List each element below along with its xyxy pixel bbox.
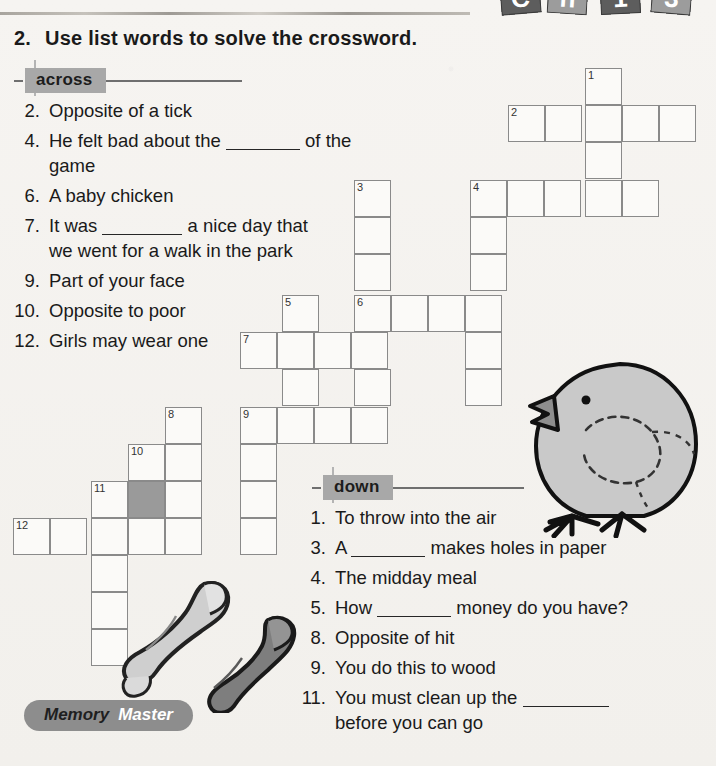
clue-item: 9. You do this to wood	[300, 655, 706, 680]
grid-cell[interactable]	[354, 254, 391, 291]
grid-cell[interactable]	[659, 105, 696, 142]
grid-cell[interactable]	[622, 180, 659, 217]
grid-cell[interactable]	[545, 105, 582, 142]
grid-cell-number: 3	[357, 181, 363, 194]
grid-cell-start-11[interactable]: 11	[91, 481, 128, 518]
answer-blank[interactable]	[523, 706, 609, 707]
clue-item: 7. It was a nice day that we went for a …	[14, 213, 366, 263]
grid-cell-number: 12	[16, 519, 28, 532]
grid-cell-start-1[interactable]: 1	[585, 68, 622, 105]
scan-edge-artifact	[0, 12, 470, 15]
grid-cell-start-2[interactable]: 2	[508, 105, 545, 142]
clue-number: 1.	[300, 505, 326, 530]
clue-text-pre: He felt bad about the	[49, 130, 221, 151]
answer-blank[interactable]	[377, 616, 451, 617]
clue-text: You must clean up the before you can go	[335, 685, 706, 735]
grid-cell[interactable]	[585, 180, 622, 217]
pair-of-socks-illustration	[118, 578, 328, 713]
grid-cell-number: 2	[511, 106, 517, 119]
grid-cell-start-9[interactable]: 9	[240, 407, 277, 444]
grid-cell-start-12[interactable]: 12	[13, 518, 50, 555]
grid-cell[interactable]	[165, 518, 202, 555]
letter-tile: 1	[599, 0, 641, 15]
grid-cell[interactable]	[354, 217, 391, 254]
grid-cell[interactable]	[351, 407, 388, 444]
grid-cell-start-6[interactable]: 6	[354, 295, 391, 332]
grid-cell[interactable]	[277, 332, 314, 369]
answer-blank[interactable]	[102, 234, 182, 235]
grid-cell[interactable]	[314, 407, 351, 444]
grid-cell[interactable]	[470, 254, 507, 291]
grid-cell[interactable]	[391, 295, 428, 332]
grid-cell-start-5[interactable]: 5	[282, 295, 319, 332]
grid-cell[interactable]	[240, 444, 277, 481]
grid-cell-start-3[interactable]: 3	[354, 180, 391, 217]
grid-cell[interactable]	[50, 518, 87, 555]
grid-cell[interactable]	[585, 142, 622, 179]
grid-cell[interactable]	[465, 369, 502, 406]
grid-cell[interactable]	[354, 369, 391, 406]
memory-master-badge: Memory Master	[24, 700, 193, 731]
clue-text: How money do you have?	[335, 595, 706, 620]
grid-cell-start-4[interactable]: 4	[470, 180, 507, 217]
clue-item: 8. Opposite of hit	[300, 625, 706, 650]
grid-cell-number: 5	[285, 296, 291, 309]
clue-number: 6.	[14, 183, 40, 208]
corner-letter-tiles: C h 1 3	[500, 0, 716, 14]
clue-text: You do this to wood	[335, 655, 706, 680]
grid-cell-number: 7	[243, 333, 249, 346]
grid-cell-number: 6	[357, 296, 363, 309]
clue-number: 10.	[14, 298, 40, 323]
grid-cell-number: 10	[131, 445, 143, 458]
grid-cell[interactable]	[470, 217, 507, 254]
clue-item: 5. How money do you have?	[300, 595, 706, 620]
clue-text-post: money do you have?	[456, 597, 628, 618]
clue-text: A makes holes in paper	[335, 535, 706, 560]
grid-cell[interactable]	[428, 295, 465, 332]
clue-text-line2: before you can go	[335, 710, 706, 735]
grid-cell[interactable]	[314, 332, 351, 369]
grid-cell[interactable]	[240, 518, 277, 555]
grid-cell[interactable]	[165, 444, 202, 481]
grid-cell[interactable]	[165, 481, 202, 518]
clue-text: Part of your face	[49, 268, 366, 293]
grid-cell[interactable]	[585, 105, 622, 142]
answer-blank[interactable]	[351, 556, 425, 557]
clue-text: The midday meal	[335, 565, 706, 590]
clue-number: 8.	[300, 625, 326, 650]
section-tick-mark	[14, 80, 23, 82]
grid-cell[interactable]	[507, 180, 544, 217]
down-section-header: down	[312, 475, 524, 500]
clue-item: 4. He felt bad about the of the game	[14, 128, 366, 178]
clue-text-post: makes holes in paper	[431, 537, 607, 558]
clue-text: To throw into the air	[335, 505, 706, 530]
badge-word-master: Master	[118, 705, 173, 725]
question-heading: 2. Use list words to solve the crossword…	[14, 27, 417, 50]
grid-cell[interactable]	[465, 332, 502, 369]
clue-text-post: a nice day that	[188, 215, 308, 236]
grid-cell[interactable]	[351, 332, 388, 369]
answer-blank[interactable]	[226, 149, 300, 150]
clue-item: 2. Opposite of a tick	[14, 98, 366, 123]
grid-cell[interactable]	[128, 481, 165, 518]
letter-tile: h	[547, 0, 590, 15]
worksheet-page: C h 1 3 2. Use list words to solve the c…	[0, 0, 716, 766]
down-rule	[393, 487, 524, 489]
grid-cell-start-8[interactable]: 8	[165, 407, 202, 444]
grid-cell[interactable]	[622, 105, 659, 142]
clue-number: 7.	[14, 213, 40, 238]
grid-cell[interactable]	[240, 481, 277, 518]
across-rule	[106, 80, 242, 82]
clue-text: He felt bad about the of the game	[49, 128, 366, 178]
grid-cell[interactable]	[544, 180, 581, 217]
clue-item: 4. The midday meal	[300, 565, 706, 590]
grid-cell[interactable]	[465, 295, 502, 332]
grid-cell-number: 9	[243, 408, 249, 421]
grid-cell[interactable]	[282, 369, 319, 406]
clue-text: Opposite of hit	[335, 625, 706, 650]
grid-cell[interactable]	[128, 518, 165, 555]
grid-cell-start-10[interactable]: 10	[128, 444, 165, 481]
grid-cell[interactable]	[277, 407, 314, 444]
grid-cell-start-7[interactable]: 7	[240, 332, 277, 369]
grid-cell[interactable]	[91, 518, 128, 555]
